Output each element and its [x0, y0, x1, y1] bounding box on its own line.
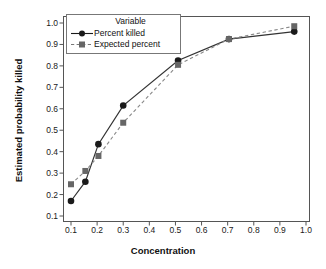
x-axis-title: Concentration	[0, 245, 326, 256]
x-tick-label: 1.0	[291, 226, 321, 235]
legend-key-square-icon	[70, 39, 94, 50]
legend: Variable Percent killed Expected percent	[66, 14, 181, 54]
legend-label-expected-percent: Expected percent	[94, 40, 160, 49]
y-tick-label: 1.0	[28, 19, 58, 28]
chart-figure: 0.10.20.30.40.50.60.70.80.91.0 0.10.20.3…	[0, 0, 326, 269]
legend-item-expected-percent[interactable]: Expected percent	[70, 39, 177, 50]
y-tick-label: 0.7	[28, 83, 58, 92]
y-tick-label: 0.8	[28, 62, 58, 71]
y-tick-label: 0.6	[28, 105, 58, 114]
x-axis-tick-labels: 0.10.20.30.40.50.60.70.80.91.0	[0, 226, 326, 240]
y-tick-label: 0.5	[28, 126, 58, 135]
y-axis-title: Estimated probability killed	[13, 11, 24, 231]
y-tick-label: 0.3	[28, 169, 58, 178]
y-tick-label: 0.1	[28, 212, 58, 221]
legend-key-circle-icon	[70, 28, 94, 39]
legend-title: Variable	[84, 17, 177, 27]
legend-label-percent-killed: Percent killed	[94, 29, 145, 38]
y-tick-label: 0.4	[28, 148, 58, 157]
y-tick-label: 0.2	[28, 191, 58, 200]
y-tick-label: 0.9	[28, 40, 58, 49]
legend-item-percent-killed[interactable]: Percent killed	[70, 28, 177, 39]
